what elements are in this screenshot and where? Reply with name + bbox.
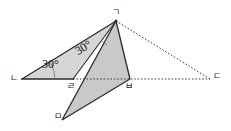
geometry-canvas [0, 0, 231, 131]
vertex-label-g: ㄱ [112, 8, 120, 17]
geometry-figure: ㄴ ㄱ ㄷ ㄹ ㅁ ㅂ 30° 30° [0, 0, 231, 131]
segment-g-d [116, 21, 210, 79]
angle-label-30-at-n: 30° [42, 58, 59, 70]
vertex-label-m: ㅁ [54, 112, 62, 121]
vertex-label-b: ㅂ [125, 82, 133, 91]
vertex-label-d: ㄷ [213, 72, 221, 81]
vertex-label-r: ㄹ [67, 82, 75, 91]
vertex-label-n: ㄴ [10, 74, 18, 83]
vertex-dot-g [115, 20, 118, 23]
